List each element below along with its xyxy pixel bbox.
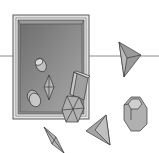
- illustration-svg: [0, 0, 159, 153]
- tetrahedron-bottom: [86, 115, 110, 145]
- octagonal-prism: [124, 97, 147, 131]
- bipyramid-bottom: [44, 127, 64, 153]
- tetrahedron-right: [119, 42, 141, 77]
- illustration-canvas: [0, 0, 159, 153]
